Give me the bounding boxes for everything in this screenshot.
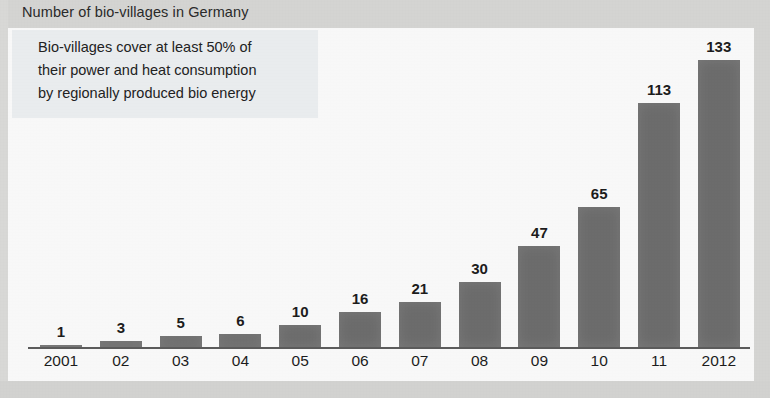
bar-06 bbox=[339, 312, 381, 347]
x-tick-label-07: 07 bbox=[386, 352, 454, 370]
bar-value-label-07: 21 bbox=[390, 280, 450, 297]
chart-title: Number of bio-villages in Germany bbox=[22, 4, 249, 20]
x-tick-label-10: 10 bbox=[565, 352, 633, 370]
x-tick-label-06: 06 bbox=[326, 352, 394, 370]
bar-value-label-2001: 1 bbox=[31, 323, 91, 340]
bar-value-label-2012: 133 bbox=[689, 38, 749, 55]
bar-05 bbox=[279, 325, 321, 347]
bar-02 bbox=[100, 341, 142, 347]
x-tick-label-08: 08 bbox=[446, 352, 514, 370]
x-tick-label-2012: 2012 bbox=[685, 352, 753, 370]
bar-03 bbox=[160, 336, 202, 347]
x-tick-label-2001: 2001 bbox=[27, 352, 95, 370]
x-tick-label-11: 11 bbox=[625, 352, 693, 370]
bar-11 bbox=[638, 103, 680, 347]
bar-2001 bbox=[40, 345, 82, 347]
bar-value-label-06: 16 bbox=[330, 290, 390, 307]
x-tick-label-02: 02 bbox=[87, 352, 155, 370]
bar-09 bbox=[518, 246, 560, 347]
x-tick-label-09: 09 bbox=[505, 352, 573, 370]
bar-08 bbox=[459, 282, 501, 347]
bar-value-label-02: 3 bbox=[91, 319, 151, 336]
bar-2012 bbox=[698, 60, 740, 347]
annotation-text: Bio-villages cover at least 50% of their… bbox=[38, 36, 328, 105]
bar-value-label-03: 5 bbox=[151, 314, 211, 331]
bar-value-label-08: 30 bbox=[450, 260, 510, 277]
bar-chart-figure: Number of bio-villages in Germany Bio-vi… bbox=[0, 0, 770, 398]
bar-07 bbox=[399, 302, 441, 347]
bar-value-label-09: 47 bbox=[509, 224, 569, 241]
bar-value-label-04: 6 bbox=[210, 312, 270, 329]
x-tick-label-05: 05 bbox=[266, 352, 334, 370]
x-axis-baseline bbox=[28, 347, 750, 349]
bar-value-label-10: 65 bbox=[569, 185, 629, 202]
bar-04 bbox=[219, 334, 261, 347]
bar-value-label-05: 10 bbox=[270, 303, 330, 320]
x-tick-label-04: 04 bbox=[206, 352, 274, 370]
bar-10 bbox=[578, 207, 620, 347]
x-tick-label-03: 03 bbox=[147, 352, 215, 370]
bar-value-label-11: 113 bbox=[629, 81, 689, 98]
